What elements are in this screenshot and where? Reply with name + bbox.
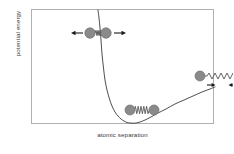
annotation-equilibrium-pair — [124, 102, 162, 118]
plot-area — [31, 9, 214, 124]
atom-circle — [125, 105, 135, 115]
atom-circle — [85, 28, 95, 38]
repulsion-right-arrow — [114, 31, 126, 36]
repulsion-left-arrow — [71, 31, 83, 36]
atom-circle — [101, 28, 111, 38]
potential-energy-curve — [32, 10, 215, 125]
atom-circle — [195, 71, 205, 81]
y-axis-label: potential energy — [14, 0, 21, 74]
x-axis-label: atomic separation — [31, 131, 214, 138]
attraction-left-arrow — [207, 83, 216, 87]
spring-coil — [204, 73, 233, 79]
potential-energy-figure: potential energy — [0, 0, 233, 154]
annotation-stretched-pair — [195, 68, 233, 90]
spring-coil — [134, 106, 149, 113]
atom-circle — [149, 105, 159, 115]
annotation-compressed-pair — [70, 24, 128, 42]
attraction-right-arrow — [229, 83, 234, 87]
